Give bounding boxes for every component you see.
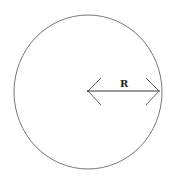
- circle-radius-diagram: R: [0, 0, 171, 177]
- center-point: [87, 90, 89, 92]
- radius-label: R: [120, 78, 129, 89]
